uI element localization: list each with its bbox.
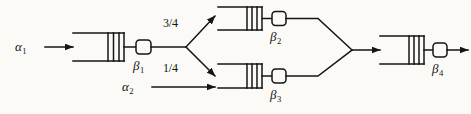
queue-beta1-buffer xyxy=(73,33,124,61)
label-branch-prob-lower: 1/4 xyxy=(163,62,178,74)
label-alpha2: α2 xyxy=(122,80,133,93)
label-branch-prob-upper: 3/4 xyxy=(163,17,178,29)
queue-beta2-buffer xyxy=(218,7,262,30)
beta3-to-merge-path xyxy=(286,50,352,76)
server-beta3 xyxy=(272,69,286,83)
label-beta3: β3 xyxy=(270,88,281,101)
server-beta2 xyxy=(272,12,286,26)
beta2-to-merge-path xyxy=(286,19,352,51)
server-beta4 xyxy=(433,43,447,57)
label-beta4: β4 xyxy=(432,62,443,75)
queue-beta3-buffer xyxy=(218,64,262,88)
network-svg xyxy=(0,0,471,114)
label-beta1: β1 xyxy=(133,59,144,72)
label-beta2: β2 xyxy=(270,30,281,43)
branch-lower-1-4 xyxy=(186,47,215,76)
label-alpha1: α1 xyxy=(15,40,26,53)
queueing-network-diagram: α1 α2 β1 β2 β3 β4 3/4 1/4 xyxy=(0,0,471,114)
server-beta1 xyxy=(136,40,151,54)
queue-beta4-buffer xyxy=(380,36,424,64)
branch-upper-3-4 xyxy=(186,16,215,47)
